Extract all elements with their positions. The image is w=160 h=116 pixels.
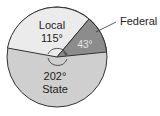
label-state-name: State xyxy=(42,83,68,95)
label-federal-value: 43° xyxy=(77,39,92,50)
label-state-value: 202° xyxy=(44,70,67,82)
label-federal-name: Federal xyxy=(120,15,157,27)
federal-leader-line xyxy=(96,22,116,32)
label-local-value: 115° xyxy=(41,32,63,44)
label-local-name: Local xyxy=(39,19,65,31)
pie-chart: Local 115° 43° Federal 202° State xyxy=(0,0,160,116)
